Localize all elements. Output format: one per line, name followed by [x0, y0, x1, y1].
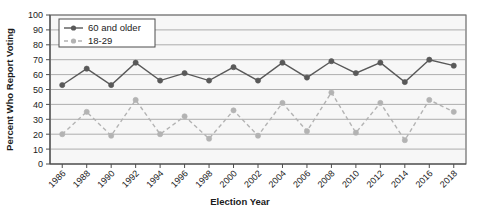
x-axis-title: Election Year [210, 196, 270, 207]
data-point [158, 78, 163, 83]
data-point [280, 100, 285, 105]
data-point [378, 60, 383, 65]
voting-line-chart: 0102030405060708090100Percent Who Report… [0, 0, 477, 217]
y-tick-label: 90 [33, 25, 43, 35]
data-point [451, 63, 456, 68]
data-point [133, 97, 138, 102]
x-tick-label: 2018 [438, 168, 459, 189]
data-point [60, 132, 65, 137]
y-tick-label: 50 [33, 85, 43, 95]
x-tick-label: 1986 [46, 168, 67, 189]
x-tick-label: 2002 [242, 168, 263, 189]
data-point [182, 114, 187, 119]
data-point [329, 59, 334, 64]
x-tick-label: 2008 [316, 168, 337, 189]
data-point [133, 60, 138, 65]
x-tick-label: 2004 [267, 168, 288, 189]
y-tick-label: 40 [33, 100, 43, 110]
data-point [158, 132, 163, 137]
data-point [231, 65, 236, 70]
chart-container: 0102030405060708090100Percent Who Report… [0, 0, 477, 217]
y-tick-label: 70 [33, 55, 43, 65]
legend: 60 and older18-29 [59, 19, 155, 47]
y-tick-label: 20 [33, 130, 43, 140]
data-point [451, 109, 456, 114]
x-tick-label: 1996 [169, 168, 190, 189]
x-tick-label: 2000 [218, 168, 239, 189]
x-tick-label: 1994 [144, 168, 165, 189]
x-tick-label: 2006 [291, 168, 312, 189]
x-tick-label: 2016 [413, 168, 434, 189]
data-point [402, 138, 407, 143]
legend-marker-1 [71, 38, 76, 43]
data-point [206, 78, 211, 83]
data-point [353, 71, 358, 76]
data-point [182, 71, 187, 76]
data-point [280, 60, 285, 65]
data-point [231, 108, 236, 113]
x-tick-label: 1998 [193, 168, 214, 189]
data-point [353, 130, 358, 135]
data-point [378, 100, 383, 105]
data-point [304, 129, 309, 134]
y-tick-label: 0 [38, 159, 43, 169]
y-axis-title: Percent Who Report Voting [4, 28, 15, 151]
x-tick-label: 1990 [95, 168, 116, 189]
x-tick-label: 1988 [71, 168, 92, 189]
data-point [84, 66, 89, 71]
data-point [304, 75, 309, 80]
legend-label-1: 18-29 [88, 35, 112, 46]
data-point [109, 82, 114, 87]
data-point [84, 109, 89, 114]
x-tick-label: 2012 [365, 168, 386, 189]
data-point [329, 90, 334, 95]
x-tick-label: 2010 [340, 168, 361, 189]
data-point [255, 78, 260, 83]
legend-label-0: 60 and older [88, 22, 141, 33]
data-point [427, 97, 432, 102]
y-tick-label: 80 [33, 40, 43, 50]
legend-marker-0 [71, 25, 76, 30]
y-tick-label: 100 [28, 10, 43, 20]
data-point [60, 82, 65, 87]
data-point [206, 136, 211, 141]
data-point [255, 133, 260, 138]
y-tick-label: 30 [33, 115, 43, 125]
y-tick-label: 60 [33, 70, 43, 80]
data-point [109, 133, 114, 138]
data-point [402, 79, 407, 84]
y-tick-label: 10 [33, 145, 43, 155]
x-tick-label: 2014 [389, 168, 410, 189]
data-point [427, 57, 432, 62]
x-tick-label: 1992 [120, 168, 141, 189]
